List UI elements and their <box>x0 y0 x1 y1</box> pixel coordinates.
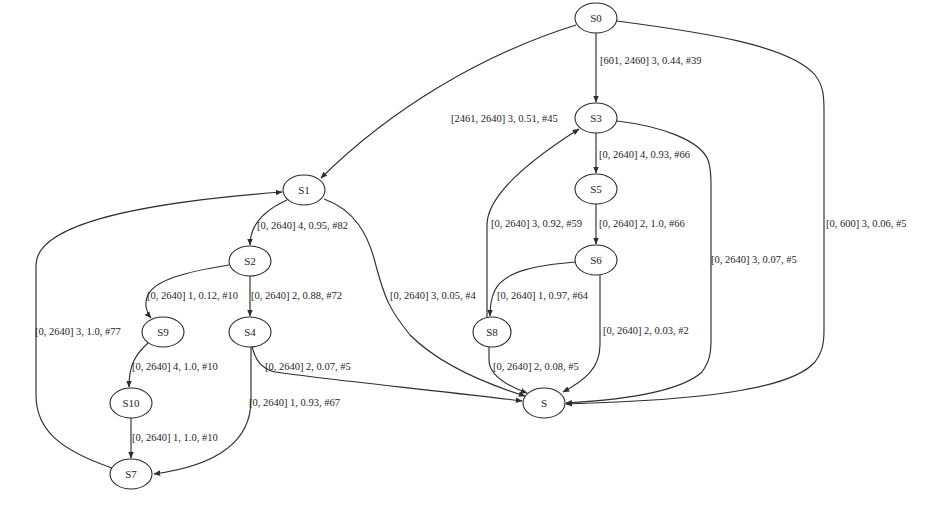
node-label: S3 <box>590 112 602 124</box>
edge-s2-s9: [0, 2640] 1, 0.12, #10 <box>146 265 238 318</box>
node-s8: S8 <box>473 317 511 347</box>
state-transition-diagram: [601, 2460] 3, 0.44, #39 [2461, 2640] 3,… <box>0 0 942 512</box>
edge-s4-s: [0, 2640] 2, 0.07, #5 <box>252 347 522 401</box>
edge-line <box>321 25 576 178</box>
edge-label: [0, 2640] 3, 1.0, #77 <box>35 326 121 337</box>
node-s1: S1 <box>283 175 325 205</box>
edge-label: [0, 2640] 3, 0.92, #59 <box>491 218 582 229</box>
edge-label: [0, 2640] 3, 0.05, #4 <box>390 290 476 301</box>
edge-label: [0, 2640] 3, 0.07, #5 <box>711 254 797 265</box>
node-s-sink: S <box>523 388 565 418</box>
edge-label: [0, 2640] 1, 0.93, #67 <box>249 397 340 408</box>
node-label: S9 <box>157 326 169 338</box>
edge-s0-s1: [2461, 2640] 3, 0.51, #45 <box>321 25 576 178</box>
edge-label: [0, 2640] 1, 0.97, #64 <box>497 290 589 301</box>
edge-s2-s4: [0, 2640] 2, 0.88, #72 <box>250 276 342 316</box>
node-label: S1 <box>298 184 310 196</box>
node-label: S0 <box>590 12 602 24</box>
node-s7: S7 <box>110 459 152 489</box>
node-label: S5 <box>590 183 602 195</box>
edge-label: [0, 600] 3, 0.06, #5 <box>826 218 907 229</box>
edge-s0-s: [0, 600] 3, 0.06, #5 <box>566 21 907 404</box>
edge-label: [0, 2640] 1, 0.12, #10 <box>147 290 238 301</box>
edge-label: [0, 2640] 4, 0.95, #82 <box>257 220 348 231</box>
node-s9: S9 <box>142 317 184 347</box>
edge-s5-s6: [0, 2640] 2, 1.0, #66 <box>596 204 685 244</box>
edge-label: [0, 2640] 4, 1.0, #10 <box>132 361 218 372</box>
node-label: S6 <box>590 254 602 266</box>
edge-label: [2461, 2640] 3, 0.51, #45 <box>451 113 558 124</box>
edge-label: [0, 2640] 2, 0.07, #5 <box>265 361 351 372</box>
edge-label: [0, 2640] 4, 0.93, #66 <box>599 149 690 160</box>
node-s4: S4 <box>229 317 271 347</box>
node-label: S2 <box>244 255 256 267</box>
node-label: S4 <box>244 326 256 338</box>
node-label: S <box>541 397 547 409</box>
edge-label: [0, 2640] 2, 0.03, #2 <box>603 325 689 336</box>
edge-s6-s8: [0, 2640] 1, 0.97, #64 <box>490 262 589 316</box>
edge-label: [601, 2460] 3, 0.44, #39 <box>600 55 702 66</box>
node-s6: S6 <box>575 245 617 275</box>
edge-s0-s3: [601, 2460] 3, 0.44, #39 <box>596 33 702 102</box>
edge-line <box>490 262 576 316</box>
node-label: S8 <box>486 326 498 338</box>
edge-s1-s2: [0, 2640] 4, 0.95, #82 <box>250 200 348 245</box>
edge-label: [0, 2640] 2, 0.08, #5 <box>493 361 579 372</box>
node-s2: S2 <box>229 246 271 276</box>
edge-line <box>252 347 522 401</box>
edge-label: [0, 2640] 1, 1.0, #10 <box>132 432 218 443</box>
node-s0: S0 <box>575 3 617 33</box>
edge-line <box>566 21 824 404</box>
edge-label: [0, 2640] 2, 0.88, #72 <box>251 290 342 301</box>
edge-s10-s7: [0, 2640] 1, 1.0, #10 <box>131 418 218 458</box>
edge-label: [0, 2640] 2, 1.0, #66 <box>599 218 685 229</box>
node-label: S10 <box>122 397 140 409</box>
edge-s3-s5: [0, 2640] 4, 0.93, #66 <box>596 133 690 173</box>
edge-s9-s10: [0, 2640] 4, 1.0, #10 <box>129 343 218 387</box>
node-s5: S5 <box>575 174 617 204</box>
node-s10: S10 <box>110 388 152 418</box>
node-s3: S3 <box>575 103 617 133</box>
edge-s8-s: [0, 2640] 2, 0.08, #5 <box>489 347 579 393</box>
node-label: S7 <box>125 468 137 480</box>
